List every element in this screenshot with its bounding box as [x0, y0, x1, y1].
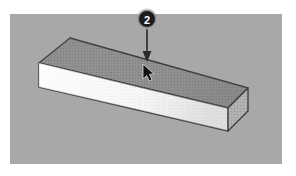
illustration-screenshot: 2 [0, 0, 296, 176]
step-number-badge[interactable]: 2 [138, 10, 156, 28]
callout-arrow [143, 29, 152, 62]
